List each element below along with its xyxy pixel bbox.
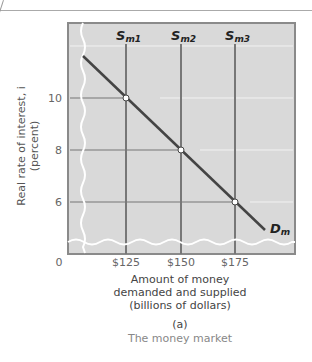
- x-tick-125: $125: [112, 256, 140, 269]
- x-axis-label-line-1: Amount of money: [100, 273, 260, 286]
- x-axis-label-line-3: (billions of dollars): [100, 299, 260, 312]
- equilibrium-point-3: [232, 199, 238, 205]
- x-tick-150: $150: [167, 256, 195, 269]
- y-tick-8: 8: [55, 144, 62, 157]
- y-tick-10: 10: [48, 92, 62, 105]
- y-axis-label-line-2: (percent): [28, 66, 41, 226]
- x-axis-label-line-2: demanded and supplied: [100, 286, 260, 299]
- x-tick-175: $175: [221, 256, 249, 269]
- equilibrium-point-2: [178, 147, 184, 153]
- panel-label: (a): [100, 318, 260, 331]
- y-tick-6: 6: [55, 196, 62, 209]
- chart-caption: The money market: [100, 332, 260, 345]
- y-axis-label: Real rate of interest, i (percent): [15, 66, 41, 226]
- y-axis-label-line-1: Real rate of interest, i: [15, 66, 28, 226]
- equilibrium-point-1: [123, 95, 129, 101]
- x-tick-0: 0: [56, 256, 63, 269]
- x-axis-label: Amount of money demanded and supplied (b…: [100, 273, 260, 312]
